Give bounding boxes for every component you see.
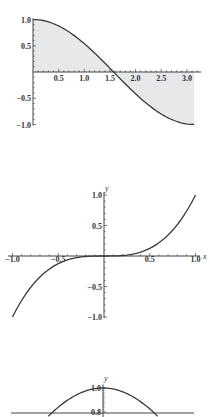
y-tick-label: −1.0 — [16, 121, 31, 130]
x-tick-label: 1.0 — [191, 255, 201, 264]
y-tick-label: 1.0 — [92, 191, 102, 200]
figure-canvas: 0.51.01.52.02.53.01.00.5−0.5−1.0 −1.0−0.… — [0, 0, 210, 417]
x-tick-label: 3.0 — [182, 74, 192, 83]
plot-cosine-filled: 0.51.01.52.02.53.01.00.5−0.5−1.0 — [16, 16, 201, 130]
x-tick-label: 1.5 — [105, 74, 115, 83]
y-tick-label: −1.0 — [87, 313, 102, 322]
y-axis-title: y — [104, 184, 109, 193]
y-tick-label: 0.5 — [21, 42, 31, 51]
x-tick-label: 0.5 — [145, 255, 155, 264]
x-tick-label: −1.0 — [5, 255, 20, 264]
y-tick-label: 1.0 — [21, 16, 31, 25]
x-tick-label: −0.5 — [51, 255, 66, 264]
x-axis-title: x — [202, 252, 207, 261]
x-tick-label: 2.0 — [131, 74, 141, 83]
plot-cubic: −1.0−0.50.51.01.00.5−0.5−1.0 x y — [5, 184, 207, 322]
x-tick-label: 2.5 — [156, 74, 166, 83]
x-tick-label: 1.0 — [79, 74, 89, 83]
plot-cosine-zoomed: 1.00.8 y — [11, 374, 194, 417]
y-axis-title: y — [103, 374, 108, 383]
x-tick-label: 0.5 — [54, 74, 64, 83]
y-tick-label: −0.5 — [16, 94, 31, 103]
y-tick-label: 0.5 — [92, 222, 102, 231]
y-tick-label: 0.8 — [91, 408, 101, 417]
y-tick-label: −0.5 — [87, 283, 102, 292]
